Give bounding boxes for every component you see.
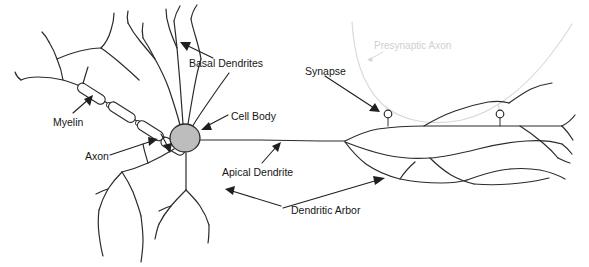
basal-dendrites-label: Basal Dendrites (189, 57, 263, 69)
apical-dendrite-leader (262, 142, 281, 163)
presynaptic-axon-leader (367, 52, 383, 62)
synaptic-terminal-1 (384, 110, 392, 126)
neuron-diagram: Presynaptic Axon (0, 0, 589, 267)
synaptic-terminal-2 (496, 110, 504, 126)
myelin-leader (73, 95, 93, 113)
axon-label: Axon (85, 150, 109, 162)
dendritic-arbor-leader-left (225, 186, 281, 206)
cell-body-label: Cell Body (231, 110, 277, 122)
cell-body-soma (170, 124, 200, 152)
basal-dendrites-leader (180, 42, 213, 58)
apical-dendrite-label: Apical Dendrite (222, 166, 293, 178)
neuron-diagram-canvas: Presynaptic Axon (0, 0, 589, 267)
dendritic-arbor-label: Dendritic Arbor (291, 204, 361, 216)
synapse-label: Synapse (305, 65, 346, 77)
dendritic-arbor-right (345, 83, 575, 185)
synapse-leader (325, 76, 380, 112)
presynaptic-axon (352, 22, 572, 123)
axon (15, 13, 172, 140)
presynaptic-axon-label: Presynaptic Axon (374, 40, 451, 51)
apical-dendrite (200, 140, 345, 141)
dendritic-arbor-left (96, 144, 209, 262)
myelin-label: Myelin (53, 116, 84, 128)
cell-body-leader (201, 115, 228, 130)
